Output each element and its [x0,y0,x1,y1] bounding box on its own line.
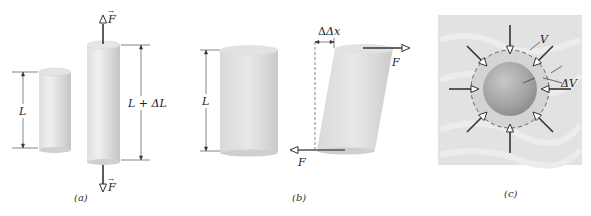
label-l: L [18,105,26,118]
force-arrow-down [100,165,107,192]
label-l: L [201,95,209,108]
short-cylinder [39,68,71,153]
caption-a: (a) [74,192,88,203]
label-delta-x: ΔΔx [318,25,341,38]
label-delta-v: ΔV [560,77,578,90]
displacement-dimension-dx [315,38,334,48]
vector-arrow-icon: → [108,8,114,16]
label-v: V [540,33,549,46]
caption-c: (c) [504,188,518,199]
upright-cylinder [220,45,278,157]
stretched-cylinder [87,41,120,165]
panel-b-shear: L ΔΔx F F (b) [180,0,390,216]
panel-c-hydraulic: V ΔV (c) [380,0,591,216]
force-arrow-up [100,15,107,44]
vector-arrow-icon: → [108,176,114,184]
label-l-plus-delta-l: L + ΔL [127,97,167,110]
caption-b: (b) [292,192,306,203]
tension-diagram: L F → F → L + ΔL (a) [0,0,200,216]
label-delta-x-text: Δx [325,25,341,38]
compressed-sphere [483,62,537,116]
panel-a-tension: L F → F → L + ΔL (a) [0,0,200,216]
force-label-bottom: F [297,156,306,169]
shear-diagram: L ΔΔx F F (b) [180,0,390,216]
hydraulic-diagram: V ΔV (c) [380,0,591,216]
